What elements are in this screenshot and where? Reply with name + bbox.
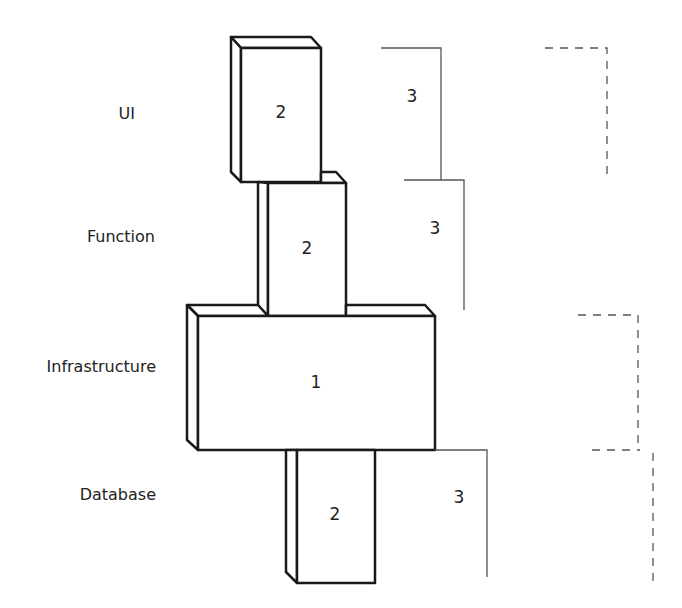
layer-label-function: Function (0, 227, 155, 246)
solid-bracket-2-value: 3 (420, 218, 450, 238)
solid-bracket-1 (381, 48, 441, 180)
infrastructure-box-value: 1 (301, 372, 331, 392)
solid-bracket-3-value: 3 (444, 487, 474, 507)
function-box-value: 2 (292, 238, 322, 258)
layer-label-database: Database (0, 485, 156, 504)
dashed-bracket-1 (545, 48, 607, 180)
layer-label-ui: UI (0, 104, 135, 123)
solid-bracket-2 (404, 180, 464, 310)
solid-bracket-1-value: 3 (397, 86, 427, 106)
dashed-brackets (545, 48, 653, 582)
solid-bracket-3 (435, 450, 487, 577)
ui-box-value: 2 (266, 102, 296, 122)
database-box-value: 2 (320, 504, 350, 524)
dashed-bracket-2 (578, 315, 638, 446)
layer-label-infrastructure: Infrastructure (0, 357, 156, 376)
